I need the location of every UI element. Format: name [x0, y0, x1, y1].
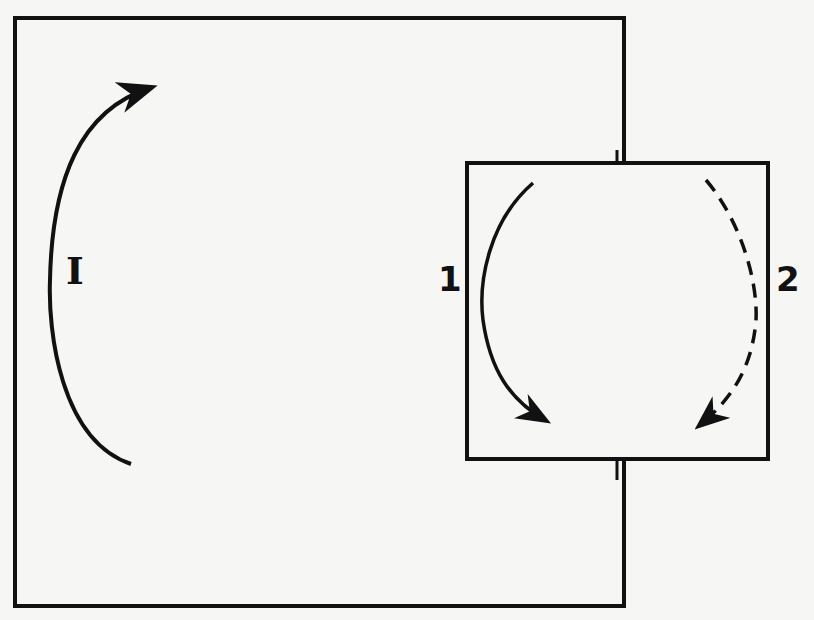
label-2: 2	[776, 262, 800, 296]
label-1: 1	[438, 262, 462, 296]
label-I: I	[66, 252, 84, 290]
diagram-canvas	[0, 0, 814, 620]
arrow-I	[50, 88, 150, 464]
